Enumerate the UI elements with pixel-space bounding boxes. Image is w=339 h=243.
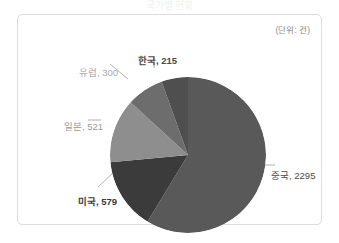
cut-off-page-title: 국가별 현황 <box>0 0 339 12</box>
slice-label-korea: 한국, 215 <box>138 55 177 66</box>
chart-card: (단위: 건) 중국, 2295 미국, 579 일본, 521 유럽, 300… <box>17 14 322 225</box>
slice-label-europe: 유럽, 300 <box>79 67 118 78</box>
slice-label-japan: 일본, 521 <box>64 121 103 132</box>
pie-chart <box>110 77 266 233</box>
slice-label-usa: 미국, 579 <box>78 196 117 207</box>
pie-slices <box>110 77 266 233</box>
slice-label-china: 중국, 2295 <box>271 170 315 181</box>
screenshot-root: 국가별 현황 (단위: 건) 중국, 2295 미국, 579 일본, 521 … <box>0 0 339 243</box>
